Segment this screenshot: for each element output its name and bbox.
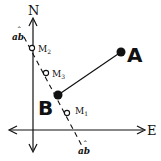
point-m1-label: M1 — [75, 106, 88, 117]
point-m3-marker — [43, 70, 48, 75]
point-a-marker — [117, 48, 126, 57]
point-m2-marker — [29, 45, 34, 50]
east-label: E — [147, 123, 157, 138]
segment-ba — [58, 52, 121, 95]
north-label: N — [28, 3, 39, 18]
line-ab-accent-bottom: ˆ — [83, 140, 88, 150]
east-axis — [9, 126, 145, 134]
point-b-marker — [54, 91, 63, 100]
line-ab-accent-top: ˆ — [17, 26, 22, 36]
point-m2-label: M2 — [38, 44, 51, 55]
point-a-label: A — [127, 43, 143, 67]
north-axis — [29, 18, 37, 152]
point-m1-marker — [64, 110, 69, 115]
point-b-label: B — [38, 96, 53, 120]
point-m3-label: M3 — [52, 69, 65, 80]
bearing-diagram: N E ab ˆ ab ˆ M2 M3 M1 B A — [0, 0, 161, 161]
